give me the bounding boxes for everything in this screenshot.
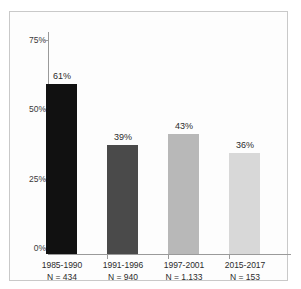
x-tick-mark-1 [107,255,108,259]
bar-chart-figure: 75% 50% 25% 0% 61% 39% 43% 36% 1985-1990… [0,0,301,289]
bar-value-label-3: 43% [160,121,208,131]
x-axis-label-group-3: 1997-2001 N = 1.133 [149,260,219,283]
x-axis-category-1: 1985-1990 [27,260,97,272]
bar-1997-2001 [168,134,199,254]
y-tick-label-0: 0% [22,244,46,253]
x-axis-line [48,254,291,255]
x-axis-count-2: N = 940 [88,272,158,284]
x-axis-label-group-1: 1985-1990 N = 434 [27,260,97,283]
x-axis-count-4: N = 153 [210,272,280,284]
chart-frame: 75% 50% 25% 0% 61% 39% 43% 36% 1985-1990… [9,11,288,281]
bar-value-label-2: 39% [99,132,147,142]
x-axis-label-group-2: 1991-1996 N = 940 [88,260,158,283]
bar-value-label-4: 36% [221,140,269,150]
x-axis-label-group-4: 2015-2017 N = 153 [210,260,280,283]
x-axis-category-3: 1997-2001 [149,260,219,272]
bar-1985-1990 [46,84,77,254]
y-tick-label-50: 50% [22,105,46,114]
bar-2015-2017 [229,153,260,254]
y-tick-mark-75 [44,40,49,41]
x-axis-category-4: 2015-2017 [210,260,280,272]
x-axis-category-2: 1991-1996 [88,260,158,272]
y-tick-label-75: 75% [22,36,46,45]
bar-value-label-1: 61% [38,71,86,81]
y-tick-label-25: 25% [22,175,46,184]
x-tick-mark-2 [168,255,169,259]
x-axis-count-1: N = 434 [27,272,97,284]
x-axis-count-3: N = 1.133 [149,272,219,284]
x-tick-mark-3 [229,255,230,259]
bar-1991-1996 [107,145,138,254]
